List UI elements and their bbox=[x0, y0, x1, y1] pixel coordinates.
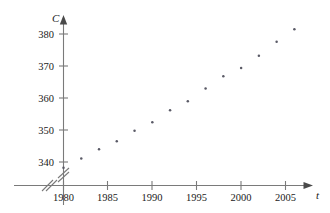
y-tick-label-370: 370 bbox=[38, 61, 54, 72]
scatter-chart: 380 370 360 350 340 1980 1985 1990 1995 … bbox=[0, 0, 330, 213]
y-tick-label-380: 380 bbox=[38, 29, 54, 40]
x-axis-arrow-icon bbox=[304, 182, 314, 189]
plot-area: 380 370 360 350 340 1980 1985 1990 1995 … bbox=[0, 0, 330, 213]
x-tick-label-1980: 1980 bbox=[53, 192, 74, 203]
y-tick-labels: 380 370 360 350 340 bbox=[38, 29, 54, 168]
data-point bbox=[169, 109, 172, 112]
x-axis-label: t bbox=[316, 189, 320, 201]
data-point bbox=[258, 55, 261, 58]
x-tick-label-1985: 1985 bbox=[97, 192, 118, 203]
y-tick-label-340: 340 bbox=[38, 157, 54, 168]
y-tick-label-350: 350 bbox=[38, 125, 54, 136]
x-tick-labels: 1980 1985 1990 1995 2000 2005 bbox=[53, 192, 296, 203]
y-axis-label: C bbox=[52, 12, 60, 24]
x-tick-label-1995: 1995 bbox=[186, 192, 207, 203]
x-tick-label-1990: 1990 bbox=[142, 192, 163, 203]
data-point bbox=[187, 100, 190, 103]
y-tick-label-360: 360 bbox=[38, 93, 54, 104]
data-point bbox=[204, 87, 207, 90]
data-points-group bbox=[62, 28, 295, 169]
data-point bbox=[275, 40, 278, 43]
data-point bbox=[240, 67, 243, 70]
data-point bbox=[222, 75, 225, 78]
x-tick-label-2005: 2005 bbox=[275, 192, 296, 203]
data-point bbox=[151, 121, 154, 124]
data-point bbox=[98, 148, 101, 151]
x-tick-label-2000: 2000 bbox=[231, 192, 252, 203]
y-axis-arrow-icon bbox=[60, 15, 67, 25]
data-point bbox=[62, 167, 65, 170]
data-point bbox=[116, 140, 119, 143]
data-point bbox=[293, 28, 296, 31]
data-point bbox=[80, 157, 83, 160]
data-point bbox=[133, 129, 136, 132]
